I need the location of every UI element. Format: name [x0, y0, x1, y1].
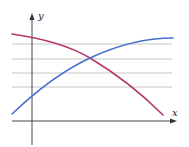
decreasing-curve [12, 34, 163, 115]
x-axis-label: x [172, 107, 178, 118]
x-axis-arrow-icon [170, 119, 177, 124]
axes [12, 18, 172, 145]
gridlines [12, 44, 172, 87]
y-axis-arrow-icon [30, 13, 35, 20]
y-axis-label: y [37, 10, 44, 21]
chart: y x [0, 0, 189, 147]
